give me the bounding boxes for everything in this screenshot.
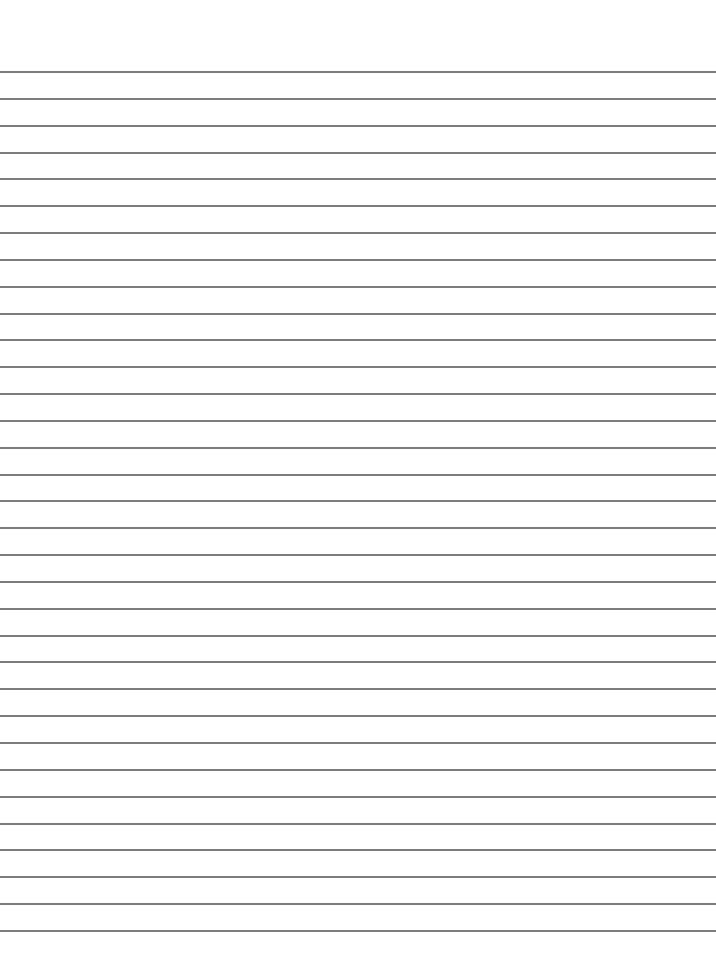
ruled-line xyxy=(0,876,716,878)
ruled-line xyxy=(0,125,716,127)
ruled-line xyxy=(0,608,716,610)
ruled-line xyxy=(0,661,716,663)
ruled-line xyxy=(0,769,716,771)
ruled-line xyxy=(0,930,716,932)
ruled-line xyxy=(0,715,716,717)
ruled-line xyxy=(0,688,716,690)
ruled-line xyxy=(0,581,716,583)
ruled-line xyxy=(0,232,716,234)
ruled-line xyxy=(0,286,716,288)
ruled-line xyxy=(0,339,716,341)
ruled-line xyxy=(0,447,716,449)
ruled-line xyxy=(0,178,716,180)
ruled-line xyxy=(0,796,716,798)
ruled-line xyxy=(0,903,716,905)
ruled-line xyxy=(0,420,716,422)
ruled-line xyxy=(0,635,716,637)
ruled-line xyxy=(0,823,716,825)
ruled-line xyxy=(0,849,716,851)
ruled-line xyxy=(0,474,716,476)
ruled-line xyxy=(0,527,716,529)
lined-paper-sheet xyxy=(0,0,716,962)
ruled-line xyxy=(0,500,716,502)
ruled-line xyxy=(0,259,716,261)
ruled-line xyxy=(0,393,716,395)
ruled-line xyxy=(0,98,716,100)
ruled-line xyxy=(0,313,716,315)
ruled-line xyxy=(0,554,716,556)
ruled-line xyxy=(0,71,716,73)
ruled-line xyxy=(0,742,716,744)
ruled-line xyxy=(0,205,716,207)
ruled-line xyxy=(0,366,716,368)
ruled-line xyxy=(0,152,716,154)
